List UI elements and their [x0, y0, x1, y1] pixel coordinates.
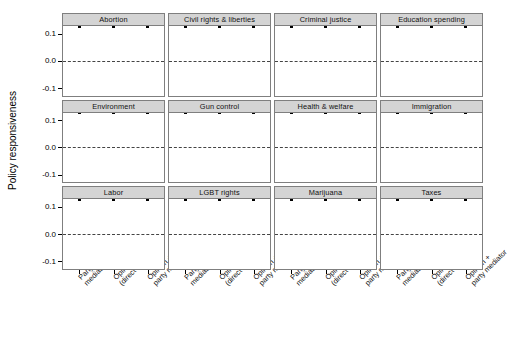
point-estimate-dot	[324, 199, 327, 201]
point-estimate-dot	[324, 113, 327, 115]
panel-title: Taxes	[380, 186, 483, 199]
point-estimate-dot	[252, 26, 255, 28]
y-axis-tick: 0.0	[41, 144, 62, 152]
y-axis-tick: -0.1	[41, 171, 62, 179]
y-axis-tick-label: 0.0	[41, 231, 56, 239]
y-axis-tick: 0.1	[41, 30, 62, 38]
y-axis-tick-label: 0.1	[41, 203, 56, 211]
y-axis-tick: 0.0	[41, 231, 62, 239]
panel-title: LGBT rights	[168, 186, 271, 199]
plot-area	[380, 199, 483, 270]
point-estimate-dot	[396, 113, 399, 115]
zero-reference-line	[275, 147, 376, 148]
zero-reference-line	[275, 234, 376, 235]
point-estimate-dot	[218, 26, 221, 28]
y-axis-tick-label: 0.0	[41, 57, 56, 65]
point-estimate-dot	[324, 26, 327, 28]
point-estimate-dot	[358, 199, 361, 201]
point-estimate-dot	[218, 199, 221, 201]
y-axis-tick: 0.1	[41, 117, 62, 125]
point-estimate-dot	[146, 26, 149, 28]
facet-panel: Labor	[62, 186, 165, 270]
point-estimate-dot	[112, 113, 115, 115]
point-estimate-dot	[464, 113, 467, 115]
y-axis: 0.10.0-0.1	[40, 113, 62, 184]
panel-title: Criminal justice	[274, 13, 377, 26]
plot-area	[168, 26, 271, 97]
facet-panel: Immigration	[380, 100, 483, 184]
point-estimate-dot	[430, 26, 433, 28]
point-estimate-dot	[358, 113, 361, 115]
facet-panel: Education spending	[380, 13, 483, 97]
facet-panel: Civil rights & liberties	[168, 13, 271, 97]
point-estimate-dot	[396, 199, 399, 201]
y-axis-tick: 0.1	[41, 203, 62, 211]
y-axis-title: Policy responsiveness	[2, 0, 22, 280]
point-estimate-dot	[252, 199, 255, 201]
point-estimate-dot	[112, 26, 115, 28]
point-estimate-dot	[184, 199, 187, 201]
point-estimate-dot	[78, 199, 81, 201]
zero-reference-line	[63, 234, 164, 235]
point-estimate-dot	[358, 26, 361, 28]
zero-reference-line	[169, 147, 270, 148]
facet-panel: LGBT rights	[168, 186, 271, 270]
y-axis-tick: 0.0	[41, 57, 62, 65]
zero-reference-line	[169, 61, 270, 62]
panel-title: Marijuana	[274, 186, 377, 199]
point-estimate-dot	[78, 113, 81, 115]
y-axis-tick-label: 0.1	[41, 30, 56, 38]
panel-title: Abortion	[62, 13, 165, 26]
plot-area	[274, 26, 377, 97]
plot-area	[380, 113, 483, 184]
zero-reference-line	[381, 61, 482, 62]
plot-area	[168, 113, 271, 184]
zero-reference-line	[169, 234, 270, 235]
y-axis-tick: -0.1	[41, 258, 62, 266]
plot-area	[62, 26, 165, 97]
y-axis-title-text: Policy responsiveness	[7, 91, 18, 190]
zero-reference-line	[63, 147, 164, 148]
panel-title: Civil rights & liberties	[168, 13, 271, 26]
y-axis: 0.10.0-0.1	[40, 26, 62, 97]
facet-panel: Criminal justice	[274, 13, 377, 97]
plot-area	[380, 26, 483, 97]
y-axis-tick-label: -0.1	[41, 258, 56, 266]
point-estimate-dot	[184, 26, 187, 28]
point-estimate-dot	[146, 113, 149, 115]
panel-title: Immigration	[380, 100, 483, 113]
x-axis: PartymediatorOpinion(direct effect)Opini…	[62, 270, 165, 344]
y-axis-tick: -0.1	[41, 85, 62, 93]
point-estimate-dot	[184, 113, 187, 115]
zero-reference-line	[63, 61, 164, 62]
plot-area	[168, 199, 271, 270]
facet-panel: Taxes	[380, 186, 483, 270]
facet-panel: Health & welfare	[274, 100, 377, 184]
point-estimate-dot	[290, 199, 293, 201]
zero-reference-line	[381, 234, 482, 235]
facet-panel: Marijuana	[274, 186, 377, 270]
point-estimate-dot	[146, 199, 149, 201]
panel-title: Gun control	[168, 100, 271, 113]
x-axis: PartymediatorOpinion(direct effect)Opini…	[380, 270, 483, 344]
point-estimate-dot	[290, 113, 293, 115]
y-axis-tick-label: 0.1	[41, 117, 56, 125]
point-estimate-dot	[396, 26, 399, 28]
y-axis: 0.10.0-0.1	[40, 199, 62, 270]
plot-area	[274, 113, 377, 184]
y-axis-tick-label: 0.0	[41, 144, 56, 152]
point-estimate-dot	[430, 113, 433, 115]
facet-panel: Gun control	[168, 100, 271, 184]
plot-area	[62, 199, 165, 270]
facet-panel: Environment	[62, 100, 165, 184]
point-estimate-dot	[430, 199, 433, 201]
panel-title: Labor	[62, 186, 165, 199]
facet-panel: Abortion	[62, 13, 165, 97]
zero-reference-line	[381, 147, 482, 148]
point-estimate-dot	[464, 26, 467, 28]
point-estimate-dot	[290, 26, 293, 28]
zero-reference-line	[275, 61, 376, 62]
panel-title: Education spending	[380, 13, 483, 26]
panel-title: Health & welfare	[274, 100, 377, 113]
